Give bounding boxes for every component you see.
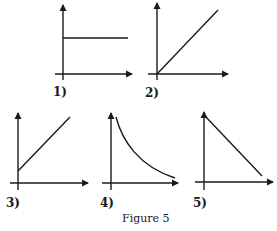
graph-5-curve xyxy=(205,116,262,176)
figure-graphs xyxy=(0,0,277,231)
graph-3-label: 3) xyxy=(6,197,20,209)
graph-4-curve xyxy=(116,117,175,178)
graph-2-label: 2) xyxy=(145,87,159,99)
graph-2-curve xyxy=(157,10,218,74)
graph-4 xyxy=(102,113,178,190)
graph-2 xyxy=(148,3,228,80)
graph-3-curve xyxy=(18,117,70,171)
graph-3 xyxy=(10,113,88,190)
graph-1-label: 1) xyxy=(53,86,67,98)
graph-1 xyxy=(55,5,132,80)
figure-caption: Figure 5 xyxy=(122,213,170,224)
graph-4-label: 4) xyxy=(100,197,114,209)
graph-5 xyxy=(195,112,273,190)
graph-5-label: 5) xyxy=(193,197,207,209)
